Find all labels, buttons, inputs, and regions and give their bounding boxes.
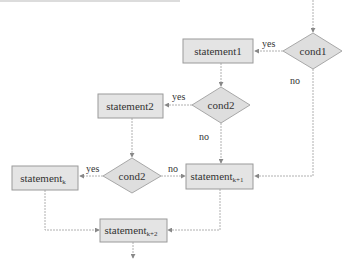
flowchart: cond1 statement1 cond2 statement2 cond2 … xyxy=(0,0,350,272)
edge-statementk-to-k2 xyxy=(45,190,99,230)
process-statement2: statement2 xyxy=(98,94,163,118)
cond2-bottom-yes-label: yes xyxy=(86,163,99,174)
cond2-bottom-no-label: no xyxy=(168,163,178,174)
cond2-top-label: cond2 xyxy=(208,99,235,111)
statement-k-label: statementk xyxy=(20,172,66,186)
cond2-top-yes-label: yes xyxy=(172,91,185,102)
edge-cond1-no xyxy=(255,69,313,176)
decision-cond2-bottom: cond2 xyxy=(103,158,161,193)
edge-statementk1-to-k2 xyxy=(168,189,220,230)
process-statement-k2: statementk+2 xyxy=(100,219,167,242)
statement1-label: statement1 xyxy=(194,45,242,57)
process-statement-k1: statementk+1 xyxy=(186,164,253,189)
cond1-label: cond1 xyxy=(300,45,327,57)
cond1-no-label: no xyxy=(290,75,300,86)
decision-cond1: cond1 xyxy=(283,33,342,69)
cond2-top-no-label: no xyxy=(199,131,209,142)
cond2-bottom-label: cond2 xyxy=(119,170,146,182)
cond1-yes-label: yes xyxy=(262,38,275,49)
decision-cond2-top: cond2 xyxy=(192,87,250,123)
process-statement-k: statementk xyxy=(12,166,78,190)
process-statement1: statement1 xyxy=(183,39,253,63)
statement2-label: statement2 xyxy=(106,100,154,112)
